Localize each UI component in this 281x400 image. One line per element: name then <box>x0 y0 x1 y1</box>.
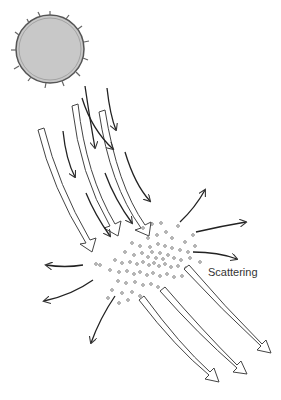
scattering-diagram <box>0 0 281 400</box>
transmitted-light-rays <box>139 265 271 382</box>
scattering-label: Scattering <box>208 266 258 278</box>
sun-icon <box>11 11 89 88</box>
